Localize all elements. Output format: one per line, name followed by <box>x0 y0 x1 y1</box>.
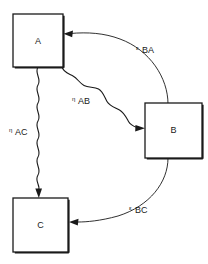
edge-label-eta-AC-subscript: AC <box>15 127 28 137</box>
edge-label-eta-AB: η AB <box>72 96 90 106</box>
edge-eta-AC-path <box>37 67 39 190</box>
node-C-label: C <box>37 220 44 230</box>
edge-epsilon-BC <box>69 158 168 225</box>
edge-epsilon-BA <box>64 31 169 104</box>
edge-epsilon-BC-arrowhead <box>69 219 79 226</box>
diagram-svg: A B C ε BA ε BC η AB η AC <box>0 0 208 264</box>
edge-epsilon-BA-path <box>70 33 168 104</box>
edge-label-epsilon-BA: ε BA <box>136 45 154 55</box>
edge-epsilon-BC-path <box>78 158 168 222</box>
edge-label-eta-AB-subscript: AB <box>78 96 90 106</box>
node-B-label: B <box>170 125 176 135</box>
node-C[interactable]: C <box>13 198 69 253</box>
diagram-canvas: A B C ε BA ε BC η AB η AC <box>0 0 208 264</box>
edge-label-epsilon-BA-subscript: BA <box>142 45 154 55</box>
edge-epsilon-BA-arrowhead <box>64 31 74 38</box>
edge-label-epsilon-BC-subscript: BC <box>135 205 148 215</box>
node-B[interactable]: B <box>145 103 203 159</box>
edge-label-eta-AC: η AC <box>9 127 28 137</box>
edge-eta-AC <box>35 67 42 198</box>
edge-label-epsilon-BA-symbol: ε <box>136 45 139 51</box>
node-A[interactable]: A <box>13 14 64 68</box>
edge-eta-AB-arrowhead <box>135 125 145 132</box>
edge-label-epsilon-BC-symbol: ε <box>129 205 132 211</box>
edge-label-eta-AB-symbol: η <box>72 96 75 102</box>
edge-label-eta-AC-symbol: η <box>9 127 12 133</box>
node-A-label: A <box>35 36 41 46</box>
edge-eta-AC-arrowhead <box>35 189 42 198</box>
